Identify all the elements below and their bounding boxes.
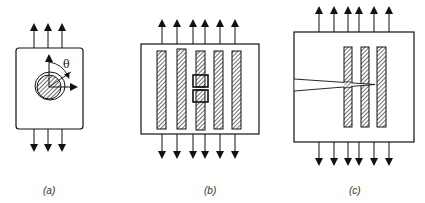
panel-label-a: (a) <box>43 185 55 196</box>
tension-arrows-bottom <box>162 134 235 155</box>
tension-arrows-bottom <box>319 142 389 162</box>
fiber-3-upper <box>196 51 205 87</box>
fiber-4 <box>214 51 223 129</box>
panel-b: (b) <box>141 23 259 196</box>
fiber-5 <box>232 51 241 129</box>
panel-label-c: (c) <box>349 185 361 196</box>
fiber-1 <box>157 51 166 129</box>
theta-label: θ <box>63 58 70 71</box>
fiber-2 <box>177 49 186 129</box>
tension-arrows-bottom <box>34 129 62 148</box>
tension-arrows-top <box>162 23 235 44</box>
tension-arrows-top <box>34 27 62 48</box>
fiber-2 <box>361 47 369 127</box>
tension-arrows-top <box>319 10 389 32</box>
figure-canvas: θ (a) <box>0 0 425 203</box>
panel-a: θ (a) <box>16 27 83 196</box>
fiber-3 <box>377 47 386 127</box>
panel-c: (c) <box>294 10 414 196</box>
panel-label-b: (b) <box>204 185 216 196</box>
fiber-3-lower <box>196 90 205 130</box>
